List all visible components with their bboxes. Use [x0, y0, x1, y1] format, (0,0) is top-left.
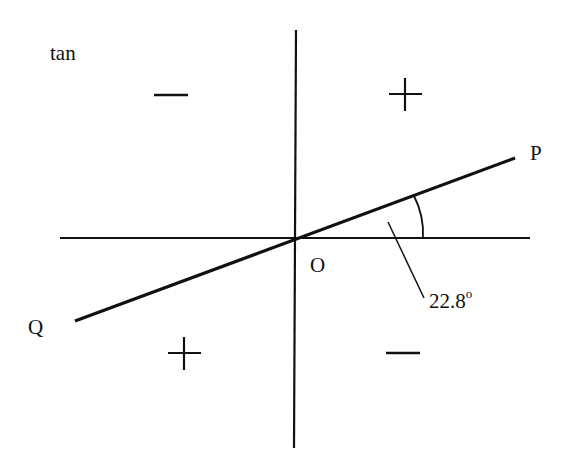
- diagram-svg: tan O P Q 22.8o: [0, 0, 570, 473]
- point-q-label: Q: [28, 315, 43, 339]
- sign-bottom-left-plus: [168, 337, 201, 370]
- point-p-label: P: [530, 141, 542, 165]
- sign-top-right-plus: [389, 78, 422, 111]
- angle-value: 22.8: [429, 289, 466, 313]
- angle-arc: [414, 196, 423, 238]
- function-label: tan: [50, 41, 76, 65]
- angle-degree-symbol: o: [466, 286, 473, 301]
- angle-leader-line: [388, 222, 424, 298]
- origin-label: O: [310, 253, 325, 277]
- tan-quadrant-diagram: tan O P Q 22.8o: [0, 0, 570, 473]
- angle-value-label: 22.8o: [429, 286, 472, 313]
